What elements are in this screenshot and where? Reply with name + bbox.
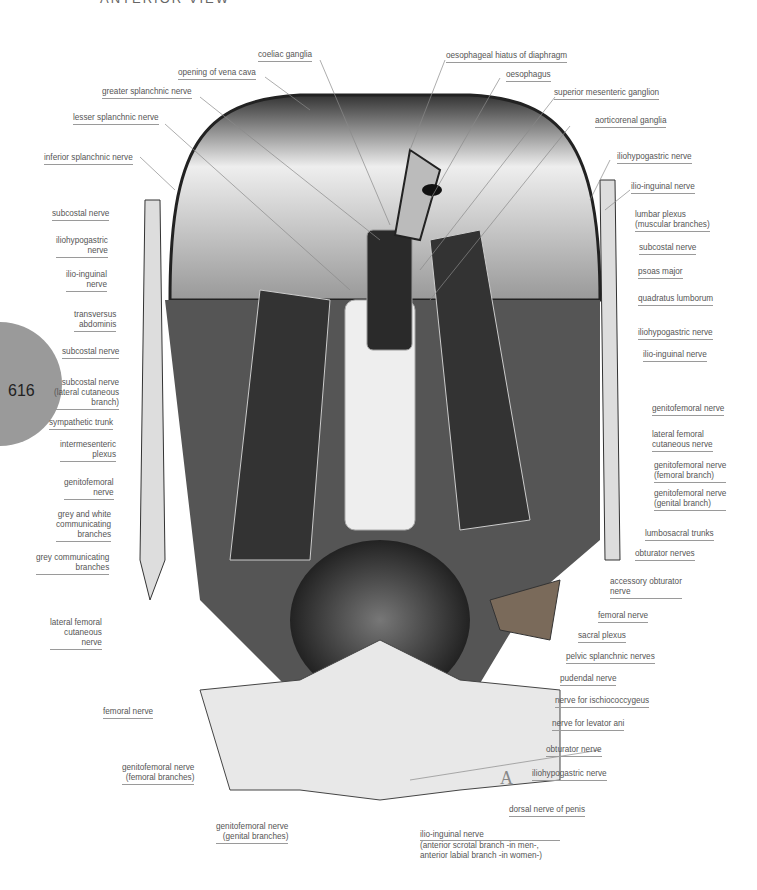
label-lateral-femoral-cutaneous-left: lateral femoralcutaneousnerve <box>50 618 102 650</box>
label-transversus-abdominis: transversusabdominis <box>74 310 116 332</box>
figure-letter: A <box>500 768 513 789</box>
label-sympathetic-trunk: sympathetic trunk <box>49 418 113 430</box>
label-iliohypogastric-nerve-right-2: iliohypogastric nerve <box>638 328 713 340</box>
label-oesophageal-hiatus: oesophageal hiatus of diaphragm <box>446 51 567 63</box>
label-femoral-nerve-left: femoral nerve <box>103 707 153 719</box>
label-sacral-plexus: sacral plexus <box>578 631 626 643</box>
label-obturator-nerve: obturator nerve <box>546 745 602 757</box>
label-lesser-splanchnic-nerve: lesser splanchnic nerve <box>73 113 159 125</box>
label-subcostal-nerve-right: subcostal nerve <box>639 243 696 255</box>
label-subcostal-nerve-lateral: subcostal nerve(lateral cutaneousbranch) <box>54 378 119 410</box>
label-subcostal-nerve-left-2: subcostal nerve <box>62 347 119 359</box>
label-superior-mesenteric-ganglion: superior mesenteric ganglion <box>554 88 659 100</box>
label-nerve-levator-ani: nerve for levator ani <box>552 719 624 731</box>
label-iliohypogastric-nerve-left: iliohypogastricnerve <box>56 236 108 258</box>
label-grey-communicating: grey communicatingbranches <box>36 553 109 575</box>
label-aorticorenal-ganglia: aorticorenal ganglia <box>595 116 666 128</box>
label-lumbosacral-trunks: lumbosacral trunks <box>645 529 714 541</box>
label-pudendal-nerve: pudendal nerve <box>560 674 616 686</box>
label-oesophagus: oesophagus <box>506 70 551 82</box>
label-genitofemoral-genital-branches: genitofemoral nerve(genital branches) <box>216 822 288 844</box>
label-accessory-obturator: accessory obturatornerve <box>610 577 682 599</box>
label-ilio-inguinal-nerve-right: ilio-inguinal nerve <box>631 182 695 194</box>
label-genitofemoral-genital-branch: genitofemoral nerve(genital branch) <box>654 489 726 511</box>
label-iliohypogastric-nerve-right: iliohypogastric nerve <box>617 152 692 164</box>
label-femoral-nerve-right: femoral nerve <box>598 611 648 623</box>
label-psoas-major: psoas major <box>638 267 683 279</box>
label-genitofemoral-nerve-right: genitofemoral nerve <box>652 404 724 416</box>
label-nerve-ischiococcygeus: nerve for ischiococcygeus <box>555 696 649 708</box>
label-dorsal-nerve-penis: dorsal nerve of penis <box>509 805 585 817</box>
label-coeliac-ganglia: coeliac ganglia <box>258 50 312 62</box>
label-ilio-inguinal-anterior: ilio-inguinal nerve(anterior scrotal bra… <box>420 830 560 862</box>
label-grey-white-communicating: grey and whitecommunicatingbranches <box>56 510 111 542</box>
label-obturator-nerves: obturator nerves <box>635 549 695 561</box>
label-greater-splanchnic-nerve: greater splanchnic nerve <box>102 87 192 99</box>
label-genitofemoral-femoral-branches: genitofemoral nerve(femoral branches) <box>122 763 194 785</box>
label-ilio-inguinal-nerve-left: ilio-inguinalnerve <box>66 270 107 292</box>
label-opening-of-vena-cava: opening of vena cava <box>178 68 256 80</box>
label-intermesenteric-plexus: intermesentericplexus <box>60 440 116 462</box>
label-genitofemoral-femoral-branch: genitofemoral nerve(femoral branch) <box>654 461 726 483</box>
label-quadratus-lumborum: quadratus lumborum <box>638 294 713 306</box>
label-ilio-inguinal-nerve-right-2: ilio-inguinal nerve <box>643 350 707 362</box>
label-lateral-femoral-cutaneous-right: lateral femoralcutaneous nerve <box>652 430 713 452</box>
label-subcostal-nerve-left: subcostal nerve <box>52 209 109 221</box>
label-lumbar-plexus: lumbar plexus(muscular branches) <box>635 210 710 232</box>
label-iliohypogastric-nerve-right-3: iliohypogastric nerve <box>532 769 607 781</box>
label-genitofemoral-nerve-left: genitofemoralnerve <box>64 478 114 500</box>
label-pelvic-splanchnic-nerves: pelvic splanchnic nerves <box>566 652 655 664</box>
label-inferior-splanchnic-nerve: inferior splanchnic nerve <box>44 153 133 165</box>
